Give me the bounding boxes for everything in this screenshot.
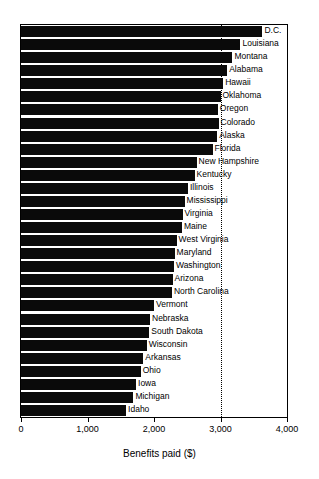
bar: [21, 300, 154, 311]
bar-category-label: Iowa: [136, 378, 156, 389]
benefits-paid-bar-chart: D.C.LouisianaMontanaAlabamaHawaiiOklahom…: [0, 0, 319, 479]
bar-category-label: Mississippi: [185, 195, 228, 206]
bar: [21, 327, 149, 338]
bar-category-label: New Hampshire: [197, 156, 259, 167]
bar-row: Colorado: [21, 118, 287, 129]
bar-row: Maine: [21, 222, 287, 233]
bar-row: Michigan: [21, 392, 287, 403]
bar-category-label: West Virginia: [177, 234, 229, 245]
bar-row: Maryland: [21, 248, 287, 259]
bar: [21, 405, 126, 416]
bar: [21, 314, 150, 325]
bar-row: D.C.: [21, 26, 287, 37]
bar-category-label: South Dakota: [149, 326, 203, 337]
bar: [21, 118, 219, 129]
bar-category-label: Wisconsin: [147, 339, 188, 350]
bar-category-label: Maine: [182, 221, 207, 232]
x-axis-tick: [21, 418, 22, 422]
bar: [21, 78, 223, 89]
bar-category-label: Montana: [232, 51, 267, 62]
bar-category-label: Alaska: [217, 130, 245, 141]
bar-category-label: Hawaii: [223, 77, 251, 88]
bar-row: Hawaii: [21, 78, 287, 89]
bar-row: Ohio: [21, 366, 287, 377]
bar-category-label: Arizona: [173, 273, 204, 284]
bar-row: Nebraska: [21, 314, 287, 325]
x-axis-tick-label: 2,000: [143, 424, 166, 434]
bar: [21, 379, 136, 390]
bar-category-label: Illinois: [188, 182, 214, 193]
x-axis-tick-label: 0: [18, 424, 23, 434]
bar-row: Alaska: [21, 131, 287, 142]
x-axis-tick: [154, 418, 155, 422]
bar: [21, 183, 188, 194]
bar-row: Mississippi: [21, 196, 287, 207]
bar: [21, 104, 218, 115]
bar-category-label: North Carolina: [172, 286, 229, 297]
bar-row: Montana: [21, 52, 287, 63]
bar-category-label: Oregon: [218, 103, 248, 114]
bar: [21, 222, 182, 233]
bar-row: Oklahoma: [21, 91, 287, 102]
x-axis-tick: [287, 418, 288, 422]
bar-category-label: Michigan: [133, 391, 169, 402]
bar-category-label: Vermont: [154, 299, 188, 310]
bar: [21, 26, 262, 37]
bar-category-label: Kentucky: [195, 169, 232, 180]
bar-row: Illinois: [21, 183, 287, 194]
bar: [21, 91, 221, 102]
bar-row: Wisconsin: [21, 340, 287, 351]
bar-category-label: Arkansas: [143, 352, 180, 363]
bar-row: Virginia: [21, 209, 287, 220]
bar-row: Idaho: [21, 405, 287, 416]
bar: [21, 235, 177, 246]
bar: [21, 157, 197, 168]
x-axis-tick: [221, 418, 222, 422]
bar-row: Iowa: [21, 379, 287, 390]
bar-row: Florida: [21, 144, 287, 155]
plot-area: D.C.LouisianaMontanaAlabamaHawaiiOklahom…: [20, 24, 288, 418]
bar-row: South Dakota: [21, 327, 287, 338]
bar: [21, 131, 217, 142]
bar: [21, 366, 141, 377]
x-axis-tick-label: 1,000: [76, 424, 99, 434]
bar: [21, 144, 213, 155]
bar-category-label: Colorado: [219, 117, 256, 128]
bar-category-label: Virginia: [183, 208, 213, 219]
bar-category-label: Washington: [174, 260, 221, 271]
bar-category-label: Florida: [213, 143, 241, 154]
bar: [21, 287, 172, 298]
bar-row: Arizona: [21, 274, 287, 285]
bar-row: Arkansas: [21, 353, 287, 364]
bar-category-label: Ohio: [141, 365, 161, 376]
bar-row: Alabama: [21, 65, 287, 76]
bar: [21, 39, 240, 50]
x-axis-tick-label: 3,000: [209, 424, 232, 434]
bar: [21, 209, 183, 220]
bar-row: North Carolina: [21, 287, 287, 298]
bar: [21, 52, 232, 63]
bar-row: West Virginia: [21, 235, 287, 246]
bar-row: New Hampshire: [21, 157, 287, 168]
bar-row: Vermont: [21, 300, 287, 311]
bar-category-label: Idaho: [126, 404, 149, 415]
bar: [21, 65, 227, 76]
bar-row: Louisiana: [21, 39, 287, 50]
bar-category-label: Maryland: [175, 247, 212, 258]
bar-category-label: Louisiana: [240, 38, 278, 49]
bar-row: Washington: [21, 261, 287, 272]
bar: [21, 392, 133, 403]
bar: [21, 261, 174, 272]
bar: [21, 196, 185, 207]
bar: [21, 274, 173, 285]
bar-category-label: Nebraska: [150, 313, 188, 324]
bars-container: D.C.LouisianaMontanaAlabamaHawaiiOklahom…: [21, 25, 287, 417]
bar: [21, 353, 143, 364]
bar-row: Kentucky: [21, 170, 287, 181]
bar: [21, 170, 195, 181]
x-axis-title: Benefits paid ($): [0, 448, 319, 459]
bar-category-label: Alabama: [227, 64, 263, 75]
bar-row: Oregon: [21, 104, 287, 115]
bar-category-label: D.C.: [262, 25, 281, 36]
x-axis-tick: [88, 418, 89, 422]
